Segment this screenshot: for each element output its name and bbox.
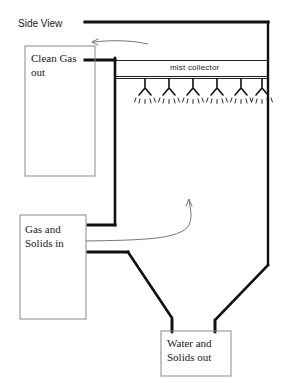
spray-nozzle: [183, 79, 204, 104]
hopper-left-slope: [128, 252, 172, 331]
water-and-solids-out-label: Water and Solids out: [167, 336, 212, 364]
spray-nozzle: [231, 79, 252, 104]
hopper-right-slope: [215, 265, 268, 331]
spray-nozzle: [207, 79, 228, 104]
diagram-canvas: Side View mist collector Clean Gas out G…: [0, 0, 294, 388]
spray-nozzle-group: [135, 79, 273, 104]
mist-collector-label: mist collector: [170, 63, 219, 72]
spray-nozzle: [252, 79, 273, 104]
clean-gas-out-arrow: [92, 39, 148, 45]
page-title: Side View: [18, 18, 62, 29]
spray-nozzle: [135, 79, 156, 104]
spray-nozzle: [159, 79, 180, 104]
gas-and-solids-in-label: Gas and Solids in: [25, 222, 64, 250]
gas-flow-up-arrow: [86, 199, 192, 241]
clean-gas-out-label: Clean Gas out: [31, 51, 77, 79]
